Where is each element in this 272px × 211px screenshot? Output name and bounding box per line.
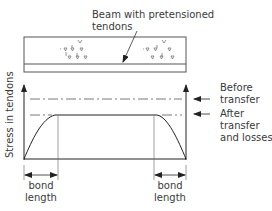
after-transfer-label-line3: and losses — [220, 132, 272, 144]
tendon-cluster-left — [60, 40, 87, 59]
bond-length-right-line1: bond — [154, 180, 186, 192]
stress-curve — [24, 115, 186, 159]
before-transfer-label-line2: transfer — [220, 94, 260, 106]
beam-label-line2: tendons — [92, 21, 132, 33]
beam-label-line1: Beam with pretensioned — [92, 9, 214, 21]
tendon-cluster-right — [143, 40, 174, 59]
before-transfer-label-line1: Before — [220, 82, 253, 94]
beam-leader-line — [123, 31, 137, 62]
y-axis-label: Stress in tendons — [4, 71, 15, 158]
bond-length-right-line2: length — [150, 192, 190, 204]
prestress-diagram: Beam with pretensioned tendons Stress in… — [0, 0, 272, 211]
after-transfer-label-line1: After — [220, 108, 244, 120]
bond-length-left-line1: bond — [24, 180, 58, 192]
after-transfer-label-line2: transfer — [220, 120, 260, 132]
bond-length-left-line2: length — [21, 192, 61, 204]
